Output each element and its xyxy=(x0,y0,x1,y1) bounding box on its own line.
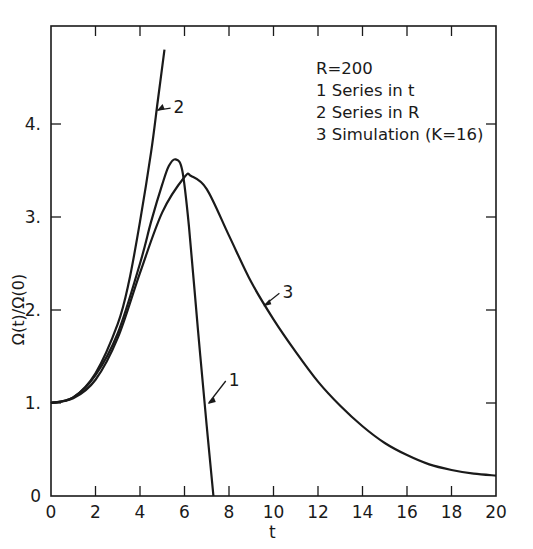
curve-annotations: 123 xyxy=(157,97,294,404)
x-tick-label: 0 xyxy=(46,502,57,522)
y-axis-ticks: 01.2.3.4. xyxy=(25,114,496,506)
x-tick-label: 6 xyxy=(179,502,190,522)
annotation-label: 2 xyxy=(174,97,185,117)
x-axis-label: t xyxy=(269,522,276,542)
x-tick-label: 16 xyxy=(396,502,418,522)
curve-series-in-t xyxy=(51,159,213,496)
legend-entry-simulation: 3 Simulation (K=16) xyxy=(316,124,483,146)
y-tick-label: 1. xyxy=(25,393,41,413)
legend-entry-series-t: 1 Series in t xyxy=(316,80,483,102)
y-tick-label: 3. xyxy=(25,207,41,227)
legend-header: R=200 xyxy=(316,58,483,80)
x-tick-label: 10 xyxy=(263,502,285,522)
x-tick-label: 4 xyxy=(135,502,146,522)
x-tick-label: 14 xyxy=(352,502,374,522)
x-tick-label: 8 xyxy=(224,502,235,522)
x-tick-label: 12 xyxy=(307,502,329,522)
legend-entry-series-r: 2 Series in R xyxy=(316,102,483,124)
legend: R=200 1 Series in t 2 Series in R 3 Simu… xyxy=(316,58,483,146)
annotation-label: 3 xyxy=(282,282,293,302)
curve-series-in-r xyxy=(51,50,164,403)
annotation-label: 1 xyxy=(229,370,240,390)
y-tick-label: 4. xyxy=(25,114,41,134)
x-tick-label: 2 xyxy=(90,502,101,522)
x-tick-label: 18 xyxy=(441,502,463,522)
y-tick-label: 0 xyxy=(30,486,41,506)
y-axis-label: Ω(t)/Ω(0) xyxy=(9,250,28,370)
x-tick-label: 20 xyxy=(485,502,507,522)
